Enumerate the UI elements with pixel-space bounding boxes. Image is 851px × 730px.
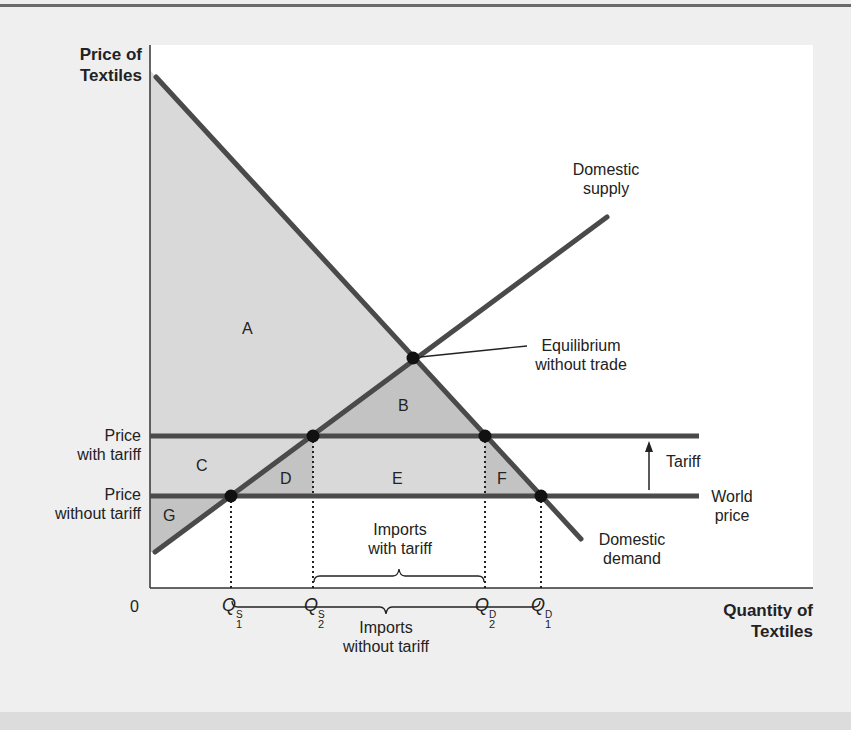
- domestic-demand-label: Domestic demand: [590, 530, 674, 568]
- world-price-line2: price: [702, 506, 762, 525]
- price-with-tariff-label: Price with tariff: [20, 426, 141, 464]
- q1s-tick-label: QS1: [222, 596, 244, 615]
- q2s-tick-label: QS2: [304, 596, 326, 615]
- q2d-q: Q: [475, 595, 489, 615]
- x-axis-title-line2: Textiles: [680, 621, 813, 642]
- imports-with-tariff-line1: Imports: [340, 520, 460, 539]
- y-axis-title-line1: Price of: [60, 44, 142, 65]
- price-with-tariff-line2: with tariff: [20, 445, 141, 464]
- domestic-demand-line1: Domestic: [590, 530, 674, 549]
- equilibrium-line1: Equilibrium: [526, 336, 636, 355]
- imports-with-tariff-line2: with tariff: [340, 539, 460, 558]
- imports-with-tariff-label: Imports with tariff: [340, 520, 460, 558]
- y-axis-title: Price of Textiles: [60, 44, 142, 86]
- equilibrium-line2: without trade: [526, 355, 636, 374]
- q2d-sub: 2: [489, 615, 495, 634]
- domestic-supply-line1: Domestic: [566, 160, 646, 179]
- q1s-q: Q: [222, 595, 236, 615]
- price-with-tariff-line1: Price: [20, 426, 141, 445]
- q1s-sub: 1: [236, 615, 242, 634]
- imports-without-tariff-line1: Imports: [316, 618, 456, 637]
- region-d-label: D: [280, 469, 292, 488]
- domestic-supply-label: Domestic supply: [566, 160, 646, 198]
- q1d-q: Q: [531, 595, 545, 615]
- q2d-dot: [479, 430, 492, 443]
- imports-with-tariff-brace: [314, 569, 484, 582]
- equilibrium-label: Equilibrium without trade: [526, 336, 636, 374]
- domestic-demand-line2: demand: [590, 549, 674, 568]
- q2d-tick-label: QD2: [475, 596, 497, 615]
- imports-without-tariff-line2: without tariff: [316, 637, 456, 656]
- x-axis-title: Quantity of Textiles: [680, 600, 813, 642]
- region-a-label: A: [242, 319, 253, 338]
- region-e-label: E: [392, 469, 403, 488]
- x-axis-title-line1: Quantity of: [680, 600, 813, 621]
- imports-without-tariff-label: Imports without tariff: [316, 618, 456, 656]
- y-axis-title-line2: Textiles: [60, 65, 142, 86]
- equilibrium-pointer: [420, 346, 527, 357]
- q2s-dot: [307, 430, 320, 443]
- region-g-label: G: [163, 506, 175, 525]
- origin-label: 0: [130, 597, 139, 616]
- tariff-arrow-head-icon: [645, 441, 653, 452]
- tariff-label: Tariff: [666, 452, 700, 471]
- region-c-label: C: [196, 456, 208, 475]
- q1s-dot: [225, 490, 238, 503]
- region-f-label: F: [497, 469, 507, 488]
- q2s-q: Q: [304, 595, 318, 615]
- world-price-label: World price: [702, 487, 762, 525]
- world-price-line1: World: [702, 487, 762, 506]
- q1d-dot: [535, 490, 548, 503]
- q1d-tick-label: QD1: [531, 596, 553, 615]
- price-without-tariff-label: Price without tariff: [20, 485, 141, 523]
- price-without-tariff-line2: without tariff: [20, 504, 141, 523]
- domestic-supply-line2: supply: [566, 179, 646, 198]
- price-without-tariff-line1: Price: [20, 485, 141, 504]
- equilibrium-dot: [407, 352, 420, 365]
- q1d-sub: 1: [545, 615, 551, 634]
- region-b-label: B: [398, 396, 409, 415]
